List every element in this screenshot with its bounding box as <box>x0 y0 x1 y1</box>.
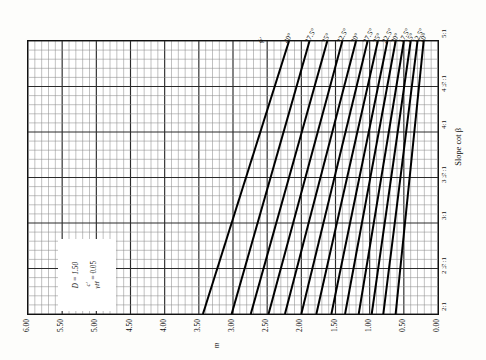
m-tick-3-50: 3.50 <box>194 319 201 332</box>
plot-area: c′ γH = 0.05 D = 1.50 <box>27 40 439 315</box>
m-tick-6-00: 6.00 <box>23 319 30 332</box>
chart-figure: c′ γH = 0.05 D = 1.50 ϕ′40°37.5°35°32.5°… <box>0 0 486 360</box>
fraction-denominator: γH <box>92 281 101 288</box>
slope-axis-title: Slope cot β <box>455 128 463 166</box>
slope-tick-5-1: 5:1 <box>441 29 448 38</box>
slope-tick-4--1: 4½:1 <box>441 75 448 92</box>
m-tick-1-50: 1.50 <box>331 319 338 332</box>
m-tick-3-00: 3.00 <box>228 319 235 332</box>
c-gamma-h-fraction: c′ γH <box>84 281 101 288</box>
slope-tick-2-1: 2:1 <box>441 302 448 311</box>
m-tick-0-50: 0.50 <box>399 319 406 332</box>
m-axis-title: m <box>212 343 221 348</box>
m-tick-5-50: 5.50 <box>57 319 64 332</box>
m-tick-4-00: 4.00 <box>160 319 167 332</box>
m-tick-1-00: 1.00 <box>365 319 372 332</box>
slope-tick-3-1: 3:1 <box>441 211 448 220</box>
m-tick-2-00: 2.00 <box>296 319 303 332</box>
annotation-box: c′ γH = 0.05 D = 1.50 <box>58 239 116 311</box>
m-tick-4-50: 4.50 <box>126 319 133 332</box>
slope-tick-4-1: 4:1 <box>441 120 448 129</box>
ratio-annotation: c′ γH = 0.05 <box>84 261 101 289</box>
m-tick-2-50: 2.50 <box>262 319 269 332</box>
m-tick-0-00: 0.00 <box>433 319 440 332</box>
fraction-numerator: c′ <box>84 283 93 287</box>
m-tick-5-00: 5.00 <box>91 319 98 332</box>
slope-tick-3--1: 3½:1 <box>441 166 448 183</box>
depth-factor-annotation: D = 1.50 <box>73 262 80 288</box>
slope-tick-2--1: 2½:1 <box>441 257 448 274</box>
ratio-value: = 0.05 <box>90 261 98 279</box>
